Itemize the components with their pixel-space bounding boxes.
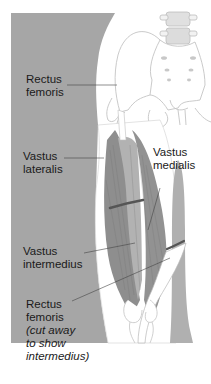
quadriceps-anatomy-diagram: Rectus femoris Vastus lateralis Vastus m… bbox=[0, 0, 211, 384]
label-rectus-femoris-top: Rectus femoris bbox=[26, 73, 64, 99]
label-vastus-lateralis: Vastus lateralis bbox=[23, 150, 63, 176]
lumbar-vertebrae bbox=[160, 12, 197, 44]
label-vastus-intermedius: Vastus intermedius bbox=[23, 245, 82, 271]
label-rectus-femoris-bottom: Rectus femoris bbox=[26, 298, 64, 324]
sacral-foramina bbox=[161, 56, 196, 81]
label-vastus-medialis: Vastus medialis bbox=[153, 146, 195, 172]
label-rectus-femoris-note: (cut away to show intermedius) bbox=[26, 324, 89, 363]
